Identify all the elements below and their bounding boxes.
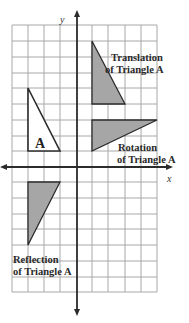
reflection-caption-line2: of Triangle A: [13, 266, 72, 277]
triangle-a-label: A: [35, 136, 46, 151]
coordinate-plane: y x A Translation of Triangle A Rotation…: [0, 0, 189, 323]
y-axis-arrow-up-icon: [74, 10, 80, 17]
rotation-caption-line2: of Triangle A: [117, 154, 176, 165]
translation-caption-line1: Translation: [111, 52, 163, 63]
rotation-caption-line1: Rotation: [118, 142, 157, 153]
y-axis-arrow-down-icon: [74, 309, 80, 316]
reflection-caption-line1: Reflection: [13, 254, 59, 265]
translation-caption-line2: of Triangle A: [105, 64, 164, 75]
y-axis-label: y: [59, 14, 65, 25]
x-axis-label: x: [166, 173, 172, 184]
x-axis-arrow-left-icon: [0, 164, 7, 170]
